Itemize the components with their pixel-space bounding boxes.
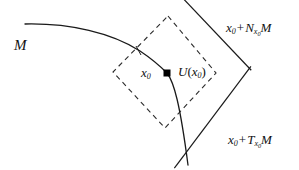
base-point-marker: [164, 70, 171, 77]
base-point-subscript: 0: [147, 72, 151, 81]
tangent-manifold-letter: M: [261, 132, 272, 147]
normal-plus-operator: +: [236, 20, 245, 35]
normal-letter: N: [245, 20, 254, 35]
normal-manifold-letter: M: [261, 20, 272, 35]
normal-space-line: [171, 0, 251, 70]
figure-canvas: M x0+Nx0M x0+Tx0M x0 U(x0): [0, 0, 299, 170]
manifold-curve: [25, 24, 188, 165]
tangent-space-label: x0+Tx0M: [228, 133, 272, 146]
neighbourhood-close-paren: ): [202, 64, 206, 79]
manifold-label: M: [14, 38, 27, 53]
normal-space-label: x0+Nx0M: [226, 21, 271, 34]
neighbourhood-label: U(x0): [178, 65, 206, 78]
tangent-plus-operator: +: [238, 132, 247, 147]
base-point-label: x0: [141, 66, 151, 79]
normal-letter-subscript: x0: [254, 27, 261, 36]
